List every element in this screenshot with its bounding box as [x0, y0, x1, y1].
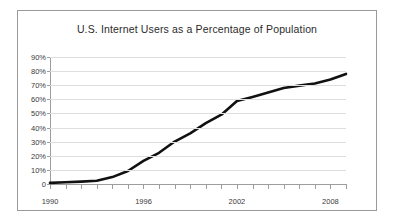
y-axis-tick: [47, 128, 50, 129]
x-axis-tick: [81, 185, 82, 189]
line-series: [50, 57, 346, 184]
x-axis-tick-label: 1990: [42, 197, 59, 206]
x-axis-tick-label: 1996: [135, 197, 152, 206]
x-axis-tick-label: 2008: [322, 197, 339, 206]
y-axis-tick-label: 10%: [31, 165, 46, 174]
gridline: [50, 113, 346, 114]
y-axis-tick-label: 90%: [31, 53, 46, 62]
plot-area: [50, 57, 346, 184]
x-axis-tick: [112, 185, 113, 189]
y-axis-tick-label: 20%: [31, 151, 46, 160]
y-axis-tick: [47, 170, 50, 171]
gridline: [50, 170, 346, 171]
y-axis-tick: [47, 142, 50, 143]
x-axis-tick: [66, 185, 67, 189]
x-axis-tick: [128, 185, 129, 189]
y-axis-tick: [47, 57, 50, 58]
chart-figure: U.S. Internet Users as a Percentage of P…: [17, 10, 377, 211]
x-axis-tick: [315, 185, 316, 189]
gridline: [50, 128, 346, 129]
x-axis-tick: [50, 185, 51, 189]
gridline: [50, 156, 346, 157]
x-axis-labels: 1990199620022008: [50, 197, 347, 209]
gridline: [50, 99, 346, 100]
y-axis-tick-label: 60%: [31, 95, 46, 104]
x-axis-tick: [330, 185, 331, 189]
x-axis-tick: [97, 185, 98, 189]
y-axis-tick-label: 70%: [31, 81, 46, 90]
x-axis-tick: [253, 185, 254, 189]
x-axis-tick: [284, 185, 285, 189]
y-axis-tick: [47, 71, 50, 72]
x-axis-tick: [299, 185, 300, 189]
chart-title: U.S. Internet Users as a Percentage of P…: [18, 23, 376, 35]
x-axis-tick: [175, 185, 176, 189]
x-axis-tick: [221, 185, 222, 189]
y-axis-tick-label: 0: [42, 180, 46, 189]
gridline: [50, 71, 346, 72]
y-axis-tick-label: 50%: [31, 109, 46, 118]
y-axis-tick: [47, 156, 50, 157]
y-axis-tick-label: 80%: [31, 67, 46, 76]
gridline: [50, 85, 346, 86]
gridline: [50, 142, 346, 143]
y-axis-tick: [47, 113, 50, 114]
x-axis-tick: [143, 185, 144, 189]
x-axis-tick: [190, 185, 191, 189]
x-axis-tick: [206, 185, 207, 189]
x-axis-tick: [346, 185, 347, 189]
gridline: [50, 57, 346, 58]
x-axis-tick: [237, 185, 238, 189]
x-axis-tick: [159, 185, 160, 189]
y-axis-tick-label: 40%: [31, 123, 46, 132]
x-axis-tick: [268, 185, 269, 189]
y-axis-tick: [47, 85, 50, 86]
y-axis-tick-label: 30%: [31, 137, 46, 146]
x-axis-ticks: [50, 185, 347, 190]
x-axis-tick-label: 2002: [229, 197, 246, 206]
y-axis-tick: [47, 99, 50, 100]
y-axis-labels: 90%80%70%60%50%40%30%20%10%0: [18, 57, 46, 184]
